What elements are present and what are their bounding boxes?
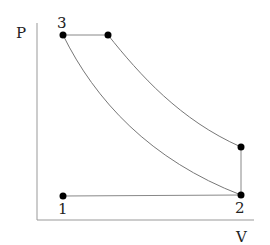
pv-diagram: P V 1 2 3 [0,0,270,245]
point-3 [60,32,67,39]
point-label-2: 2 [235,199,245,217]
point-label-3: 3 [57,14,67,32]
y-axis-label: P [16,24,26,42]
point-label-1: 1 [58,200,68,218]
curve-4-5 [108,35,241,147]
x-axis-label: V [235,228,248,245]
process-1-2 [63,195,241,196]
point-5 [238,144,245,151]
curve-3-2 [63,35,241,195]
point-1 [60,193,67,200]
point-2 [238,192,245,199]
point-4 [105,32,112,39]
